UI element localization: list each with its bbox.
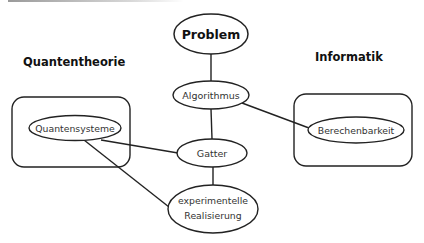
- group-title-quantentheorie: Quantentheorie: [23, 55, 125, 69]
- edge-quantensysteme-gatter: [101, 140, 178, 153]
- group-title-informatik: Informatik: [315, 50, 383, 64]
- node-realisierung[interactable]: experimentelle Realisierung: [168, 185, 258, 233]
- concept-diagram: Quantentheorie Informatik Problem Algori…: [0, 0, 424, 243]
- edge-algorithmus-gatter: [211, 109, 212, 139]
- node-algorithmus[interactable]: Algorithmus: [173, 81, 249, 109]
- node-quantensysteme[interactable]: Quantensysteme: [29, 116, 121, 141]
- node-algorithmus-label: Algorithmus: [182, 90, 240, 101]
- node-gatter[interactable]: Gatter: [177, 139, 247, 167]
- node-problem-label: Problem: [182, 27, 241, 42]
- edge-quantensysteme-realisierung: [84, 140, 169, 207]
- node-gatter-label: Gatter: [197, 148, 227, 159]
- edge-algorithmus-berechenbarkeit: [242, 103, 309, 128]
- node-realisierung-label-line2: Realisierung: [184, 210, 241, 221]
- node-berechenbarkeit[interactable]: Berechenbarkeit: [308, 117, 404, 143]
- node-quantensysteme-label: Quantensysteme: [35, 123, 115, 134]
- node-realisierung-label-line1: experimentelle: [178, 195, 248, 206]
- node-berechenbarkeit-label: Berechenbarkeit: [318, 125, 395, 136]
- node-problem[interactable]: Problem: [174, 14, 248, 54]
